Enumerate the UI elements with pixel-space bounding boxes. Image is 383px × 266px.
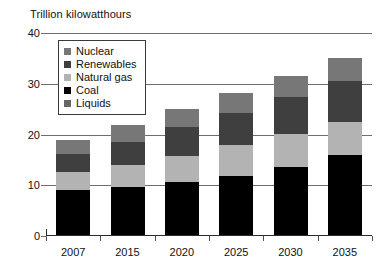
bar-group-2015 [111,125,145,236]
bar-segment [328,81,362,122]
legend-item-label: Liquids [76,97,111,110]
x-axis-tick-label: 2007 [43,246,103,258]
x-axis-tick-label: 2035 [315,246,375,258]
bar-segment [328,122,362,155]
legend-item-natural-gas: Natural gas [64,71,137,84]
bar-segment [56,140,90,154]
x-axis-tick-label: 2020 [152,246,212,258]
y-axis-line [46,229,47,236]
bar-segment [111,187,145,235]
x-axis-tick-mark [318,236,319,241]
y-axis-tick-mark [41,185,47,186]
bar-group-2035 [328,58,362,236]
bar-segment [165,182,199,235]
legend-item-renewables: Renewables [64,58,137,71]
bar-segment [111,125,145,142]
bar-segment [219,145,253,176]
legend-swatch-icon [64,100,71,107]
y-axis-tick-mark [41,84,47,85]
bar-segment [219,113,253,144]
bar-segment [274,167,308,235]
legend-item-coal: Coal [64,84,137,97]
legend-item-liquids: Liquids [64,97,137,110]
y-axis-tick-mark [41,33,47,34]
bar-segment [111,165,145,187]
x-axis-tick-label: 2025 [206,246,266,258]
legend-item-label: Nuclear [76,45,114,58]
legend-swatch-icon [64,74,71,81]
bar-segment [274,76,308,97]
bar-group-2030 [274,76,308,236]
bar-segment [56,154,90,172]
x-axis-tick-mark [155,236,156,241]
bar-segment [219,93,253,113]
y-axis-tick-label: 0 [14,230,40,242]
bar-group-2007 [56,140,90,236]
x-axis-tick-mark [209,236,210,241]
bar-segment [328,155,362,235]
legend-item-label: Natural gas [76,71,132,84]
bar-group-2020 [165,109,199,236]
bar-segment [274,97,308,133]
legend-swatch-icon [64,87,71,94]
y-axis-tick-mark [41,135,47,136]
legend-swatch-icon [64,48,71,55]
y-axis-tick-label: 30 [14,78,40,90]
x-axis-tick-mark [100,236,101,241]
bar-segment [219,176,253,235]
chart-container: Trillion kilowatthours 20072015202020252… [0,0,383,266]
legend-swatch-icon [64,61,71,68]
x-axis-tick-mark [263,236,264,241]
x-axis-tick-label: 2030 [261,246,321,258]
y-axis-tick-label: 10 [14,179,40,191]
y-axis-tick-label: 40 [14,27,40,39]
y-axis-tick-label: 20 [14,129,40,141]
bar-segment [165,109,199,127]
legend-item-nuclear: Nuclear [64,45,137,58]
bar-segment [56,190,90,235]
bar-segment [56,172,90,191]
bar-segment [111,142,145,165]
y-axis-tick-mark [41,236,47,237]
bar-segment [328,58,362,81]
bar-segment [165,127,199,156]
bar-segment [274,134,308,167]
chart-axis-title: Trillion kilowatthours [30,8,131,20]
bar-group-2025 [219,93,253,236]
chart-legend: NuclearRenewablesNatural gasCoalLiquids [58,40,146,115]
legend-item-label: Renewables [76,58,137,71]
x-axis-tick-label: 2015 [98,246,158,258]
legend-item-label: Coal [76,84,99,97]
bar-segment [165,156,199,182]
x-axis-tick-mark [372,236,373,241]
